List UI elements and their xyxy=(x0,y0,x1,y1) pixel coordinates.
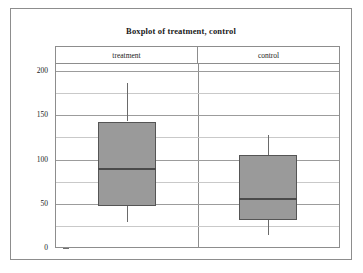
chart-title: Boxplot of treatment, control xyxy=(10,26,352,36)
box-control xyxy=(239,155,297,220)
median-line-control xyxy=(239,198,297,200)
whisker-lower xyxy=(268,220,269,235)
plot-frame: treatment control xyxy=(55,46,340,248)
box-treatment xyxy=(98,122,156,206)
gridline-minor xyxy=(56,93,339,94)
whisker-lower xyxy=(127,206,128,223)
y-axis-tick-label: 0 xyxy=(22,243,48,252)
group-header-row: treatment control xyxy=(56,47,339,64)
group-divider xyxy=(198,64,199,247)
y-axis-tick-label: 100 xyxy=(22,155,48,164)
boxplot-figure: Boxplot of treatment, control 0501001502… xyxy=(0,0,363,273)
plot-area xyxy=(56,64,339,247)
whisker-upper xyxy=(268,135,269,155)
y-axis-tick-label: 200 xyxy=(22,66,48,75)
group-header-control: control xyxy=(198,47,339,63)
y-axis-tick-label: 150 xyxy=(22,110,48,119)
gridline-minor xyxy=(56,226,339,227)
median-line-treatment xyxy=(98,168,156,170)
gridline-major xyxy=(56,115,339,116)
y-axis-tick xyxy=(63,248,69,249)
y-axis-tick-label: 50 xyxy=(22,199,48,208)
group-header-treatment: treatment xyxy=(56,47,198,63)
whisker-upper xyxy=(127,83,128,122)
y-axis-labels: 050100150200 xyxy=(14,46,48,248)
gridline-major xyxy=(56,71,339,72)
